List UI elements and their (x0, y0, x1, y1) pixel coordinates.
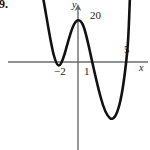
graph-canvas (0, 0, 150, 150)
quartic-curve (44, 0, 130, 119)
problem-number-label: 9. (0, 0, 8, 10)
x-root-annotation-minus-2: −2 (54, 66, 66, 77)
y-value-annotation-20: 20 (90, 10, 101, 21)
x-root-annotation-5: 5 (124, 44, 130, 55)
x-axis-label: x (139, 63, 143, 73)
x-root-annotation-1: 1 (84, 66, 90, 77)
y-axis-label: y (72, 0, 76, 10)
math-figure-quartic-graph: 9. y x 20 5 −2 1 (0, 0, 150, 150)
